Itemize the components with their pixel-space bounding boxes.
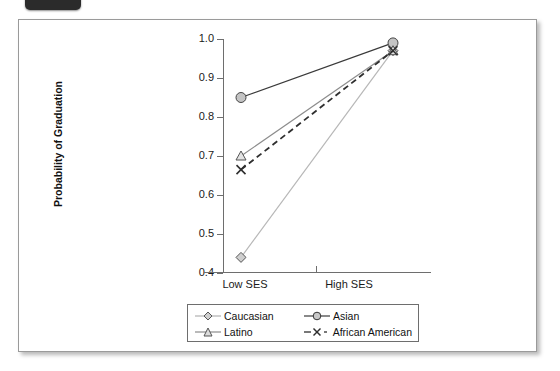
legend-label: Caucasian	[224, 310, 274, 322]
x-axis-line	[204, 272, 431, 273]
legend-label: Asian	[333, 310, 359, 322]
legend-row: Caucasian Asian	[194, 308, 412, 324]
legend-item-caucasian[interactable]: Caucasian	[194, 309, 303, 323]
y-axis-tick	[217, 234, 223, 235]
triangle-marker-icon	[194, 325, 222, 339]
legend-label: Latino	[224, 326, 253, 338]
x-tick-label-low-ses: Low SES	[205, 278, 285, 290]
x-marker-icon	[303, 325, 331, 339]
legend-item-asian[interactable]: Asian	[303, 309, 412, 323]
y-tick-label: 0.6	[180, 188, 214, 200]
series-caucasian	[236, 46, 398, 263]
window-tab-badge[interactable]	[25, 0, 81, 10]
y-tick-label: 0.5	[180, 227, 214, 239]
legend-row: Latino African American	[194, 324, 412, 340]
y-axis-tick	[217, 156, 223, 157]
x-axis-tick	[316, 266, 317, 273]
y-tick-label: 0.8	[180, 110, 214, 122]
y-tick-label: 0.9	[180, 71, 214, 83]
y-axis-tick	[217, 195, 223, 196]
y-axis-title: Probability of Graduation	[52, 69, 64, 219]
legend: Caucasian Asian	[187, 304, 419, 342]
legend-item-african-american[interactable]: African American	[303, 325, 412, 339]
circle-marker-icon	[303, 309, 331, 323]
legend-label: African American	[333, 326, 412, 338]
legend-item-latino[interactable]: Latino	[194, 325, 303, 339]
y-axis-tick	[217, 78, 223, 79]
y-axis-tick	[217, 39, 223, 40]
y-axis-tick	[217, 117, 223, 118]
series-latino	[236, 46, 398, 160]
y-tick-label: 1.0	[180, 32, 214, 44]
series-african-american	[237, 46, 398, 174]
series-asian	[236, 38, 398, 103]
x-tick-label-high-ses: High SES	[309, 278, 389, 290]
figure-frame: Probability of Graduation 1.0 0.9 0.8 0.…	[18, 19, 537, 352]
y-axis-tick	[217, 273, 223, 274]
y-axis-line	[223, 39, 224, 273]
diamond-marker-icon	[194, 309, 222, 323]
y-tick-label: 0.7	[180, 149, 214, 161]
